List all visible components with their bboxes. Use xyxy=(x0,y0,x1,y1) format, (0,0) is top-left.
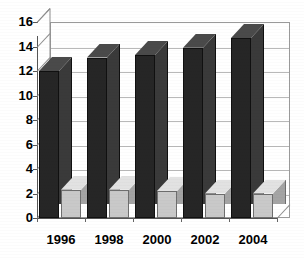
x-axis-tick xyxy=(85,218,86,222)
bar-side-face xyxy=(107,44,120,204)
bar-side-face xyxy=(251,24,264,204)
bar-front-face xyxy=(231,38,251,218)
bar-front-face xyxy=(135,55,155,218)
bar xyxy=(205,194,225,219)
x-axis-tick xyxy=(181,218,182,222)
bar-series-layer xyxy=(0,0,304,258)
bar-front-face xyxy=(253,194,273,219)
bar-front-face xyxy=(39,71,59,218)
bar xyxy=(253,194,273,219)
bar xyxy=(61,190,81,218)
bar-side-face xyxy=(203,34,216,204)
bar xyxy=(157,191,177,218)
bar xyxy=(39,71,59,218)
bar-chart: 0246810121416 19961998200020022004 xyxy=(0,0,304,258)
bar xyxy=(231,38,251,218)
x-axis-tick xyxy=(133,218,134,222)
x-axis-tick xyxy=(229,218,230,222)
bar-front-face xyxy=(109,190,129,218)
x-axis-label: 2002 xyxy=(181,232,229,247)
bar xyxy=(87,58,107,218)
x-axis-tick xyxy=(37,218,38,222)
bar-side-face xyxy=(155,41,168,204)
bar xyxy=(135,55,155,218)
x-axis-label: 1998 xyxy=(85,232,133,247)
bar-front-face xyxy=(61,190,81,218)
x-axis-tick xyxy=(277,218,278,222)
x-axis-labels: 19961998200020022004 xyxy=(0,228,304,252)
bar xyxy=(183,48,203,218)
x-axis-label: 2004 xyxy=(229,232,277,247)
bar-front-face xyxy=(205,194,225,219)
bar-front-face xyxy=(157,191,177,218)
bar xyxy=(109,190,129,218)
bar-front-face xyxy=(183,48,203,218)
x-axis-label: 1996 xyxy=(37,232,85,247)
x-axis-label: 2000 xyxy=(133,232,181,247)
bar-front-face xyxy=(87,58,107,218)
